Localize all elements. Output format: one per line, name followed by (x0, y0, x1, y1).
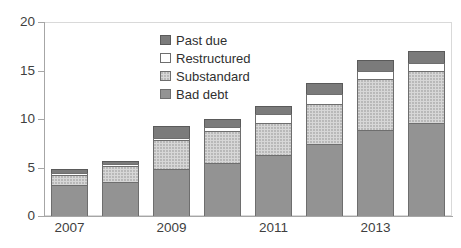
legend-item-past-due[interactable]: Past due (160, 33, 250, 47)
y-axis-label: 15 (4, 64, 35, 78)
bar-2010[interactable] (204, 119, 241, 216)
bar-segment-bad-debt (357, 130, 394, 216)
bar-segment-past-due (255, 106, 292, 114)
stacked-bar-chart: 05101520 2007200920112013 Past due Restr… (0, 0, 461, 248)
x-axis-line (44, 216, 453, 217)
bar-segment-bad-debt (408, 123, 445, 216)
substandard-swatch-icon (160, 71, 171, 81)
bar-2012[interactable] (306, 83, 343, 216)
bar-segment-bad-debt (255, 155, 292, 216)
bar-2009[interactable] (153, 126, 190, 216)
x-axis-label-2013: 2013 (346, 221, 406, 235)
y-axis-label: 20 (4, 15, 35, 29)
chart-legend: Past due Restructured Substandard Bad de… (160, 33, 250, 101)
x-axis-label-2007: 2007 (40, 221, 100, 235)
past-due-swatch-icon (160, 35, 171, 45)
y-axis-label: 10 (4, 112, 35, 126)
bar-2011[interactable] (255, 106, 292, 216)
bar-segment-substandard (408, 71, 445, 123)
legend-label: Past due (176, 34, 227, 47)
bar-segment-bad-debt (306, 144, 343, 216)
legend-item-substandard[interactable]: Substandard (160, 69, 250, 83)
bar-segment-substandard (255, 123, 292, 155)
bar-segment-bad-debt (102, 182, 139, 216)
bar-2013[interactable] (357, 60, 394, 216)
bar-segment-past-due (153, 126, 190, 139)
bar-segment-past-due (306, 83, 343, 94)
bar-segment-substandard (51, 175, 88, 185)
bar-segment-past-due (357, 60, 394, 72)
bar-segment-bad-debt (153, 169, 190, 216)
bar-segment-substandard (306, 104, 343, 145)
bar-segment-restructured (408, 63, 445, 71)
bar-segment-restructured (306, 94, 343, 104)
legend-item-restructured[interactable]: Restructured (160, 51, 250, 65)
bar-segment-past-due (204, 119, 241, 127)
y-axis-label: 0 (4, 209, 35, 223)
bar-segment-past-due (408, 51, 445, 63)
bar-2014[interactable] (408, 51, 445, 216)
legend-item-bad-debt[interactable]: Bad debt (160, 87, 250, 101)
bar-segment-substandard (102, 166, 139, 182)
y-axis-tick (38, 216, 44, 217)
legend-label: Substandard (176, 70, 250, 83)
x-axis-label-2011: 2011 (244, 221, 304, 235)
restructured-swatch-icon (160, 53, 171, 63)
bar-2007[interactable] (51, 168, 88, 216)
legend-label: Restructured (176, 52, 250, 65)
bar-2008[interactable] (102, 161, 139, 216)
y-axis-label: 5 (4, 161, 35, 175)
bar-segment-bad-debt (204, 163, 241, 216)
bar-segment-restructured (255, 114, 292, 123)
x-axis-label-2009: 2009 (142, 221, 202, 235)
bad-debt-swatch-icon (160, 89, 171, 99)
bar-segment-substandard (153, 140, 190, 169)
bar-segment-substandard (357, 79, 394, 129)
bar-segment-restructured (357, 71, 394, 79)
bar-segment-substandard (204, 131, 241, 163)
legend-label: Bad debt (176, 88, 228, 101)
bar-segment-bad-debt (51, 185, 88, 216)
